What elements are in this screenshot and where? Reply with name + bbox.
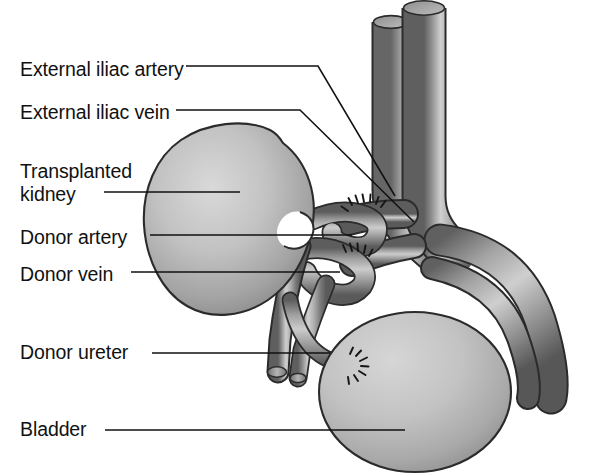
figure-canvas: External iliac artery External iliac vei… [0,0,596,476]
donor-vessel-cut-end-a [267,367,286,377]
label-external-iliac-vein: External iliac vein [20,101,170,124]
aorta-cut-end [404,1,445,15]
label-transplanted-kidney-line2: kidney [20,183,76,206]
label-external-iliac-artery: External iliac artery [20,58,184,81]
label-bladder: Bladder [20,418,87,441]
bladder [319,312,511,472]
label-donor-ureter: Donor ureter [20,341,128,364]
label-transplanted-kidney-line1: Transplanted [20,160,132,183]
bladder-body [319,312,511,472]
donor-vessel-cut-end-b [290,373,306,382]
label-donor-artery: Donor artery [20,226,127,249]
label-donor-vein: Donor vein [20,263,113,286]
